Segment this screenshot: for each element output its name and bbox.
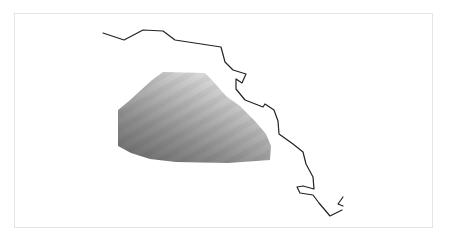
map-canvas — [0, 0, 449, 242]
coastline-fragment — [338, 197, 343, 206]
heat-region-bands — [118, 72, 271, 163]
